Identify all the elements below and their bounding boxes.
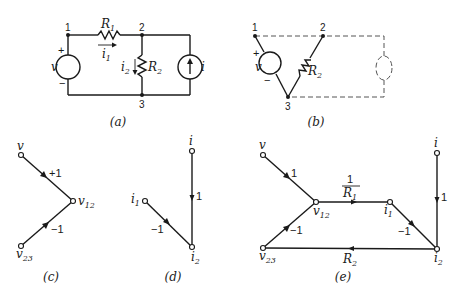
node-i1-label: i1 — [384, 203, 393, 219]
caption-c: (c) — [43, 270, 59, 284]
node-v12 — [71, 199, 76, 204]
arrow-left-icon — [348, 246, 354, 251]
node-i2-label: i2 — [434, 251, 443, 267]
node-v23-label: v23 — [16, 247, 33, 263]
i2-label: i2 — [121, 60, 130, 76]
resistor-r2-icon — [138, 55, 146, 77]
node-v-label: v — [259, 138, 266, 152]
branch-wire — [310, 36, 323, 58]
arrow-right-icon — [112, 43, 117, 48]
arrow-down-icon — [190, 195, 195, 201]
r2-label: R2 — [307, 64, 322, 80]
gain-label: −1 — [151, 223, 164, 235]
node-1-dot — [253, 34, 257, 38]
gain-label: −1 — [51, 223, 64, 235]
node-i-label: i — [434, 136, 438, 150]
arrow-down-icon — [435, 197, 440, 203]
node-1-dot — [66, 33, 70, 37]
panel-a-circuit: 1 2 3 R1 i1 i2 R2 v i + − (a) — [51, 17, 205, 129]
node-2-label: 2 — [320, 22, 326, 33]
plus-sign: + — [58, 44, 64, 56]
node-v — [19, 153, 24, 158]
gain-label: 1 — [291, 167, 297, 179]
node-i1 — [143, 199, 148, 204]
node-v23-label: v23 — [259, 249, 276, 265]
gain-label: +1 — [49, 167, 62, 179]
branch-wire — [276, 74, 288, 97]
branch-wire — [288, 76, 300, 97]
panel-c-graph: v v12 v23 +1 −1 (c) — [16, 139, 95, 284]
caption-e: (e) — [335, 270, 352, 284]
arrow-icon — [283, 225, 290, 232]
node-i-label: i — [189, 134, 193, 148]
r2-label: R2 — [147, 60, 162, 76]
gain-label: 1 — [441, 191, 447, 203]
node-3-dot — [286, 95, 290, 99]
r1-label: R1 — [100, 17, 115, 33]
caption-b: (b) — [307, 115, 324, 129]
node-1-label: 1 — [65, 22, 71, 33]
gain-label: 1 — [196, 190, 202, 202]
node-i2 — [190, 245, 195, 250]
caption-a: (a) — [110, 115, 127, 129]
node-i — [190, 149, 195, 154]
node-v12-label: v12 — [313, 204, 330, 220]
gain-label: −1 — [290, 224, 303, 236]
minus-sign: − — [59, 77, 65, 89]
arrow-icon — [42, 222, 49, 229]
node-1-label: 1 — [252, 22, 258, 33]
v-label: v — [51, 60, 58, 74]
node-v-label: v — [17, 139, 24, 153]
node-i1 — [388, 200, 393, 205]
minus-sign: − — [264, 74, 270, 86]
node-i1-label: i1 — [131, 192, 140, 208]
gain-denominator: R1 — [342, 186, 357, 202]
arrow-up-icon — [187, 58, 193, 64]
voltage-source-icon — [56, 55, 80, 79]
node-2-label: 2 — [139, 22, 145, 33]
node-3-dot — [140, 93, 144, 97]
node-3-label: 3 — [139, 99, 145, 110]
i1-label: i1 — [102, 47, 111, 63]
plus-sign: + — [253, 47, 259, 59]
dashed-current-source-icon — [376, 56, 392, 80]
gain-numerator: 1 — [347, 173, 353, 185]
caption-d: (d) — [164, 270, 181, 284]
node-2-dot — [321, 34, 325, 38]
panel-b-tree: 1 2 3 + − v R2 (b) — [252, 22, 392, 129]
dashed-link — [288, 80, 384, 97]
node-i2-label: i2 — [191, 250, 200, 266]
node-3-label: 3 — [285, 101, 291, 112]
gain-label-r2: R2 — [342, 252, 357, 268]
node-i — [435, 151, 440, 156]
node-v12-label: v12 — [78, 194, 95, 210]
resistor-r1-icon — [98, 31, 120, 39]
i-label: i — [201, 60, 205, 74]
panel-e-graph: v v12 v23 i1 i i2 1 −1 1 R1 −1 1 R2 (e) — [259, 136, 447, 284]
arrow-down-icon — [133, 70, 138, 75]
panel-d-graph: i i1 i2 1 −1 (d) — [131, 134, 202, 284]
gain-label: −1 — [398, 225, 411, 237]
figure-canvas: 1 2 3 R1 i1 i2 R2 v i + − (a) 1 2 3 + − — [0, 0, 457, 295]
node-v — [261, 153, 266, 158]
node-2-dot — [140, 33, 144, 37]
voltage-source-icon — [259, 52, 281, 74]
v-label: v — [255, 60, 262, 74]
